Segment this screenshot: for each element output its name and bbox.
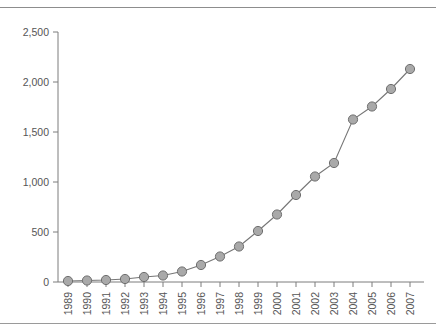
data-point-marker xyxy=(196,260,205,269)
x-tick-label: 2005 xyxy=(366,292,378,316)
y-axis: 05001,0001,5002,0002,500 xyxy=(23,26,58,288)
data-point-marker xyxy=(234,242,243,251)
y-tick-label: 1,500 xyxy=(23,126,49,138)
x-tick-label: 2003 xyxy=(328,292,340,316)
x-tick-label: 1993 xyxy=(138,292,150,316)
x-tick-label: 2004 xyxy=(347,292,359,316)
data-point-marker xyxy=(386,84,395,93)
y-tick-label: 500 xyxy=(31,226,49,238)
x-tick-label: 1996 xyxy=(195,292,207,316)
data-point-marker xyxy=(329,158,338,167)
data-point-marker xyxy=(291,190,300,199)
y-tick-label: 2,000 xyxy=(23,76,49,88)
data-point-marker xyxy=(310,172,319,181)
data-point-marker xyxy=(158,271,167,280)
data-point-marker xyxy=(272,210,281,219)
bottom-divider-rule xyxy=(0,323,436,324)
data-point-marker xyxy=(405,64,414,73)
data-point-marker xyxy=(177,267,186,276)
y-tick-label: 1,000 xyxy=(23,176,49,188)
data-point-marker xyxy=(120,274,129,283)
x-tick-label: 1999 xyxy=(252,292,264,316)
x-tick-label: 1989 xyxy=(62,292,74,316)
top-divider-rule xyxy=(0,7,436,8)
data-point-marker xyxy=(139,272,148,281)
x-tick-label: 2000 xyxy=(271,292,283,316)
data-markers xyxy=(63,64,414,285)
x-tick-label: 2001 xyxy=(290,292,302,316)
data-point-marker xyxy=(82,276,91,285)
x-tick-label: 1992 xyxy=(119,292,131,316)
x-tick-label: 1994 xyxy=(157,292,169,316)
y-tick-label: 2,500 xyxy=(23,26,49,38)
data-point-marker xyxy=(367,102,376,111)
x-tick-label: 2002 xyxy=(309,292,321,316)
x-tick-label: 1997 xyxy=(214,292,226,316)
data-point-marker xyxy=(101,275,110,284)
data-point-marker xyxy=(253,226,262,235)
x-tick-label: 2007 xyxy=(404,292,416,316)
x-tick-label: 1990 xyxy=(81,292,93,316)
x-tick-label: 2006 xyxy=(385,292,397,316)
y-tick-label: 0 xyxy=(43,276,49,288)
data-point-marker xyxy=(215,252,224,261)
x-tick-label: 1995 xyxy=(176,292,188,316)
data-point-marker xyxy=(348,115,357,124)
line-chart: 05001,0001,5002,0002,500 198919901991199… xyxy=(0,0,436,332)
x-tick-label: 1991 xyxy=(100,292,112,316)
data-point-marker xyxy=(63,276,72,285)
x-axis: 1989199019911992199319941995199619971998… xyxy=(58,282,424,315)
chart-figure: 05001,0001,5002,0002,500 198919901991199… xyxy=(0,0,436,332)
x-tick-label: 1998 xyxy=(233,292,245,316)
